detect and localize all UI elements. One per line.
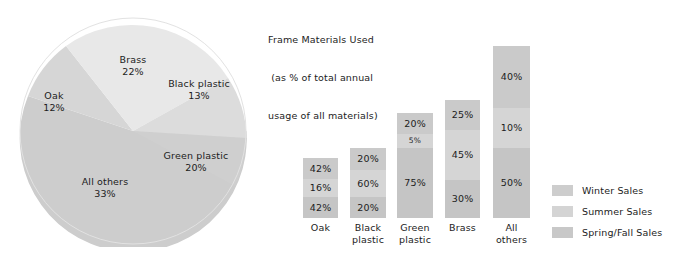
pie-label-all-others: All others 33%: [63, 176, 147, 200]
bar-chart: 42% 16% 42% Oak 20% 60%: [290, 40, 540, 256]
legend-item-spring-fall-sales[interactable]: Spring/Fall Sales: [552, 222, 672, 243]
pie-label-brass-name: Brass: [87, 54, 179, 66]
pie-label-black-plastic-value: 13%: [151, 90, 247, 102]
pie-label-oak-name: Oak: [26, 90, 82, 102]
legend-swatch-summer-sales: [552, 206, 573, 217]
pie-chart: Brass 22% Black plastic 13% Oak 12% Gree…: [19, 16, 248, 247]
bar-column-green-plastic[interactable]: 20% 5% 75% Green plastic: [397, 113, 433, 218]
bar-segment-oak-winter[interactable]: 42%: [303, 158, 338, 179]
bar-segment-label: 16%: [310, 183, 332, 193]
bar-segment-label: 20%: [357, 154, 379, 164]
bar-column-oak[interactable]: 42% 16% 42% Oak: [303, 158, 338, 218]
pie-chart-svg: [19, 16, 248, 247]
bar-segment-all-others-summer[interactable]: 10%: [493, 108, 530, 148]
bar-segment-label: 42%: [310, 203, 332, 213]
pie-label-brass-value: 22%: [87, 66, 179, 78]
bar-segment-brass-springfall[interactable]: 30%: [445, 180, 480, 218]
bar-column-brass[interactable]: 25% 45% 30% Brass: [445, 100, 480, 218]
figure-canvas: Brass 22% Black plastic 13% Oak 12% Gree…: [0, 0, 676, 256]
bar-column-black-plastic[interactable]: 20% 60% 20% Black plastic: [350, 148, 386, 218]
legend-swatch-winter-sales: [552, 185, 573, 196]
pie-label-black-plastic-name: Black plastic: [151, 78, 247, 90]
bar-segment-all-others-winter[interactable]: 40%: [493, 46, 530, 108]
legend-label-winter-sales: Winter Sales: [582, 185, 643, 197]
legend-swatch-spring-fall-sales: [552, 227, 573, 238]
legend-item-winter-sales[interactable]: Winter Sales: [552, 180, 672, 201]
bar-column-all-others[interactable]: 40% 10% 50% All others: [493, 46, 530, 218]
bar-segment-label: 42%: [310, 164, 332, 174]
legend-item-summer-sales[interactable]: Summer Sales: [552, 201, 672, 222]
bar-segment-label: 60%: [357, 179, 379, 189]
bar-segment-oak-summer[interactable]: 16%: [303, 179, 338, 197]
bar-segment-label: 45%: [452, 150, 474, 160]
bar-segment-label: 25%: [452, 110, 474, 120]
bar-segment-all-others-springfall[interactable]: 50%: [493, 148, 530, 218]
bar-segment-green-plastic-summer[interactable]: 5%: [397, 134, 433, 148]
bar-segment-label: 20%: [404, 119, 426, 129]
bar-segment-label: 10%: [501, 123, 523, 133]
pie-label-green-plastic-name: Green plastic: [147, 150, 245, 162]
legend-label-summer-sales: Summer Sales: [582, 206, 652, 218]
bar-segment-label: 40%: [501, 72, 523, 82]
pie-label-all-others-name: All others: [63, 176, 147, 188]
pie-label-brass: Brass 22%: [87, 54, 179, 78]
bar-xlabel-all-others: All others: [481, 222, 542, 246]
bar-segment-black-plastic-springfall[interactable]: 20%: [350, 197, 386, 218]
pie-label-green-plastic: Green plastic 20%: [147, 150, 245, 174]
bar-segment-brass-winter[interactable]: 25%: [445, 100, 480, 130]
bar-chart-legend: Winter Sales Summer Sales Spring/Fall Sa…: [552, 180, 672, 243]
bar-segment-label: 20%: [357, 203, 379, 213]
pie-label-oak-value: 12%: [26, 102, 82, 114]
pie-label-green-plastic-value: 20%: [147, 162, 245, 174]
bar-segment-black-plastic-summer[interactable]: 60%: [350, 170, 386, 197]
pie-label-oak: Oak 12%: [26, 90, 82, 114]
pie-label-all-others-value: 33%: [63, 188, 147, 200]
bar-segment-green-plastic-winter[interactable]: 20%: [397, 113, 433, 134]
bar-segment-label: 5%: [409, 136, 421, 146]
bar-segment-black-plastic-winter[interactable]: 20%: [350, 148, 386, 170]
bar-segment-oak-springfall[interactable]: 42%: [303, 197, 338, 218]
bar-segment-brass-summer[interactable]: 45%: [445, 130, 480, 180]
bar-segment-green-plastic-springfall[interactable]: 75%: [397, 148, 433, 218]
pie-label-black-plastic: Black plastic 13%: [151, 78, 247, 102]
bar-segment-label: 50%: [501, 178, 523, 188]
legend-label-spring-fall-sales: Spring/Fall Sales: [582, 227, 662, 239]
bar-segment-label: 75%: [404, 178, 426, 188]
bar-segment-label: 30%: [452, 194, 474, 204]
